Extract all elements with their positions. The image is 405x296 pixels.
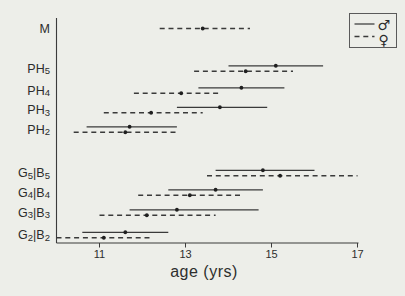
male-mean-dot xyxy=(175,208,179,212)
stage-row: PH4 xyxy=(27,84,284,99)
stage-row-label: PH5 xyxy=(27,62,50,77)
male-mean-dot xyxy=(218,105,222,109)
stage-row: G2|B2 xyxy=(18,228,168,243)
female-symbol-icon: ♀ xyxy=(379,32,389,48)
x-tick-label: 11 xyxy=(94,248,105,260)
puberty-stage-age-figure: 11131517 MPH5PH4PH3PH2G5|B5G4|B4G3|B3G2|… xyxy=(0,0,405,296)
stage-row-label: PH3 xyxy=(27,103,50,118)
stage-row: G3|B3 xyxy=(18,206,259,221)
stage-row: PH5 xyxy=(27,62,323,77)
x-axis-title: age (yrs) xyxy=(170,263,238,280)
stage-row-label: G2|B2 xyxy=(18,228,50,243)
stage-row: M xyxy=(40,22,250,36)
stage-rows: MPH5PH4PH3PH2G5|B5G4|B4G3|B3G2|B2 xyxy=(18,22,357,243)
stage-row-label: PH2 xyxy=(27,123,50,138)
female-mean-dot xyxy=(278,174,282,178)
female-mean-dot xyxy=(102,236,106,240)
male-mean-dot xyxy=(240,86,244,90)
x-axis-ticks: 11131517 xyxy=(94,243,364,260)
x-tick-label: 15 xyxy=(265,248,277,260)
female-mean-dot xyxy=(145,213,149,217)
x-tick-label: 17 xyxy=(351,248,363,260)
female-mean-dot xyxy=(149,111,153,115)
stage-row-label: PH4 xyxy=(27,84,50,99)
male-symbol-icon: ♂ xyxy=(378,17,391,33)
stage-row: PH2 xyxy=(27,123,177,138)
stage-row-label: G4|B4 xyxy=(18,186,50,201)
male-mean-dot xyxy=(274,64,278,68)
legend: ♂ ♀ xyxy=(350,14,397,48)
male-mean-dot xyxy=(123,230,127,234)
male-mean-dot xyxy=(261,168,265,172)
x-tick-label: 13 xyxy=(179,248,191,260)
stage-row-label: G3|B3 xyxy=(18,206,50,221)
stage-row: G5|B5 xyxy=(18,166,357,181)
female-mean-dot xyxy=(123,130,127,134)
tanner-stage-range-chart: 11131517 MPH5PH4PH3PH2G5|B5G4|B4G3|B3G2|… xyxy=(0,0,405,296)
male-mean-dot xyxy=(214,188,218,192)
female-mean-dot xyxy=(179,91,183,95)
female-mean-dot xyxy=(201,27,205,31)
male-mean-dot xyxy=(128,125,132,129)
female-mean-dot xyxy=(188,193,192,197)
female-mean-dot xyxy=(244,69,248,73)
stage-row-label: G5|B5 xyxy=(18,166,50,181)
stage-row: PH3 xyxy=(27,103,267,118)
stage-row-label: M xyxy=(40,22,50,36)
stage-row: G4|B4 xyxy=(18,186,263,201)
